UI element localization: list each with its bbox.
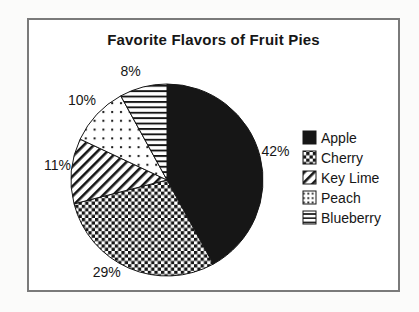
legend-swatch-cherry [303,151,316,164]
legend-label-cherry: Cherry [321,150,363,166]
slice-label-blueberry: 8% [120,63,140,79]
slice-label-key-lime: 11% [44,157,71,173]
legend-swatch-key-lime [303,171,316,184]
legend-label-apple: Apple [321,130,357,146]
legend-label-peach: Peach [321,190,361,206]
legend: Apple Cherry Key Lime Peach Blueberry [303,130,381,226]
legend-swatch-blueberry [303,211,316,224]
pie [71,84,263,276]
slice-label-cherry: 29% [93,264,121,280]
legend-swatch-apple [303,131,316,144]
chart-frame: Favorite Flavors of Fruit Pies [27,18,400,292]
legend-label-blueberry: Blueberry [321,210,381,226]
legend-swatch-peach [303,191,316,204]
slice-label-apple: 42% [261,143,289,159]
legend-label-key-lime: Key Lime [321,170,380,186]
pie-chart-svg: 42% 29% 11% 10% 8% Apple Cherry Key Lime… [29,20,398,290]
screenshot-canvas: Favorite Flavors of Fruit Pies [0,0,419,312]
slice-label-peach: 10% [68,92,96,108]
